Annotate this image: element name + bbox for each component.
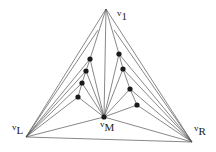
graph-edge-16 [26, 97, 78, 137]
right-chain-node-1 [120, 66, 125, 71]
graph-edge-27 [104, 105, 137, 117]
label-vM: vM [100, 119, 115, 133]
graph-edge-2 [26, 137, 192, 142]
label-vR: vR [194, 123, 207, 137]
right-chain-node-3 [134, 102, 139, 107]
graph-edge-5 [104, 117, 192, 142]
graph-edge-3 [104, 9, 106, 117]
left-chain-node-2 [79, 80, 84, 85]
label-v1: v1 [117, 8, 127, 22]
graph-edge-29 [130, 89, 137, 105]
graph-edge-7 [90, 59, 104, 117]
graph-edge-6 [90, 9, 106, 59]
graph-edge-22 [123, 69, 192, 142]
left-chain-node-3 [75, 94, 80, 99]
graph-edge-20 [119, 54, 192, 142]
graph-edge-26 [123, 69, 130, 89]
nodes-layer [75, 51, 139, 119]
label-vL: vL [12, 122, 24, 136]
graph-edge-24 [104, 89, 130, 117]
left-chain-node-1 [83, 68, 88, 73]
graph-edge-13 [26, 83, 82, 137]
graph-edge-28 [137, 105, 192, 142]
graph-edge-0 [26, 9, 106, 137]
graph-diagram: v1 vL vR vM [0, 0, 216, 152]
graph-edge-10 [26, 71, 86, 137]
right-chain-node-0 [116, 51, 121, 56]
right-chain-node-2 [127, 86, 132, 91]
labels-layer: v1 vL vR vM [12, 8, 207, 137]
graph-edge-31 [114, 30, 192, 142]
left-chain-node-0 [87, 56, 92, 61]
graph-edge-8 [26, 59, 90, 137]
graph-edge-1 [106, 9, 192, 142]
